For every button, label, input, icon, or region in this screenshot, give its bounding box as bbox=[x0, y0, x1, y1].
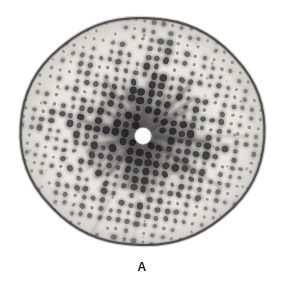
figure-root: A bbox=[0, 0, 284, 282]
diffraction-pattern-canvas bbox=[13, 11, 272, 252]
diffraction-photograph bbox=[13, 11, 272, 252]
panel-label: A bbox=[0, 260, 284, 274]
